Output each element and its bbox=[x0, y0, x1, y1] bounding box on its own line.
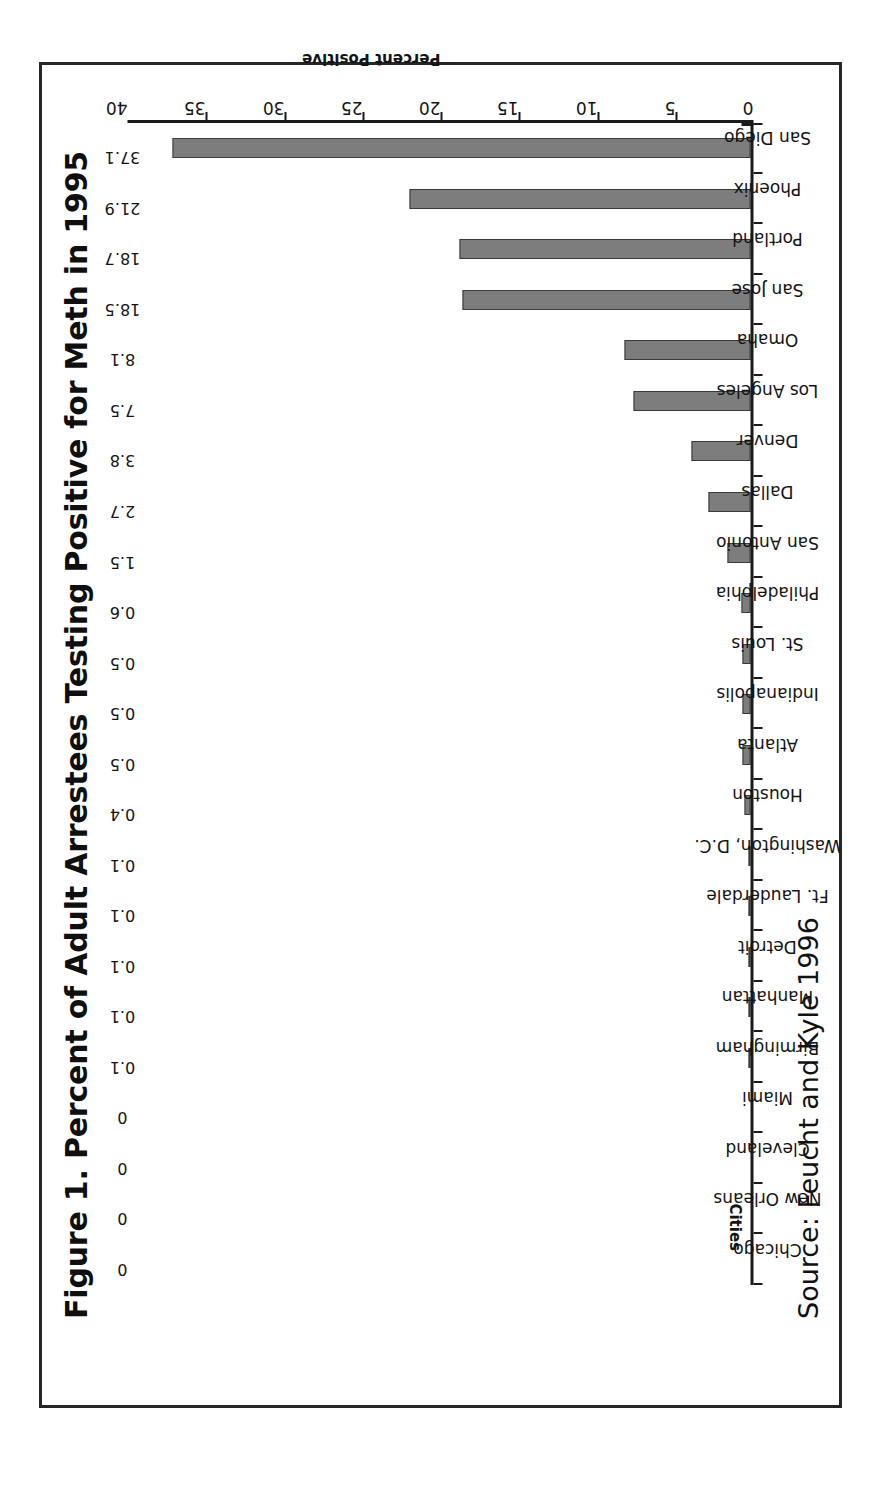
bar-group: 7.5 bbox=[127, 376, 750, 427]
category-label-cell: Dallas bbox=[753, 477, 839, 528]
category-label-cell: Los Angeles bbox=[753, 376, 839, 427]
category-label: San Antonio bbox=[716, 533, 819, 553]
bar-group: 3.8 bbox=[127, 426, 750, 477]
bar-value-label: 0.1 bbox=[109, 957, 134, 976]
value-axis-title: Percent Positive bbox=[302, 50, 440, 68]
bar-group: 0.5 bbox=[127, 729, 750, 780]
value-tick-label: 0 bbox=[742, 98, 753, 118]
bar-group: 21.9 bbox=[127, 174, 750, 225]
category-label-cell: Atlanta bbox=[753, 729, 839, 780]
bar-value-label: 8.1 bbox=[109, 350, 134, 369]
bar-value-label: 0.5 bbox=[109, 755, 134, 774]
category-label-cell: Houston bbox=[753, 780, 839, 831]
bar-group: 18.5 bbox=[127, 275, 750, 326]
bar-value-label: 18.7 bbox=[104, 249, 140, 268]
category-label: Houston bbox=[732, 785, 803, 805]
bar bbox=[624, 340, 750, 360]
bar-group: 2.7 bbox=[127, 477, 750, 528]
bar-value-label: 37.1 bbox=[104, 148, 140, 167]
bar-group: 0.1 bbox=[127, 982, 750, 1033]
value-tick-label: 25 bbox=[340, 98, 362, 118]
bar-value-label: 0 bbox=[117, 1108, 127, 1127]
bar-value-label: 0.4 bbox=[109, 805, 134, 824]
plot-area: 00000.10.10.10.10.10.40.50.50.50.61.52.7… bbox=[127, 123, 753, 1285]
category-label: Los Angeles bbox=[716, 381, 818, 401]
value-tick-label: 30 bbox=[262, 98, 284, 118]
category-label-cell: Denver bbox=[753, 426, 839, 477]
bar-value-label: 0.5 bbox=[109, 654, 134, 673]
bar-group: 0 bbox=[127, 1083, 750, 1134]
bar-group: 0 bbox=[127, 1234, 750, 1285]
category-label: Denver bbox=[736, 432, 798, 452]
category-label-cell: Omaha bbox=[753, 325, 839, 376]
value-axis-endcap bbox=[741, 123, 753, 126]
bar bbox=[462, 290, 750, 310]
category-label-cell: Philadelphia bbox=[753, 578, 839, 629]
bar-value-label: 3.8 bbox=[109, 452, 134, 471]
category-label: Dallas bbox=[741, 482, 793, 502]
figure: Figure 1. Percent of Adult Arrestees Tes… bbox=[42, 65, 839, 1405]
figure-title: Figure 1. Percent of Adult Arrestees Tes… bbox=[42, 65, 97, 1405]
bar-series: 00000.10.10.10.10.10.40.50.50.50.61.52.7… bbox=[127, 123, 750, 1285]
bar-value-label: 0 bbox=[117, 1159, 127, 1178]
category-label: Philadelphia bbox=[715, 583, 819, 603]
bar-group: 0.5 bbox=[127, 628, 750, 679]
bar-value-label: 2.7 bbox=[109, 502, 134, 521]
bar-group: 0.6 bbox=[127, 578, 750, 629]
bar-group: 8.1 bbox=[127, 325, 750, 376]
category-label: St. Louis bbox=[731, 634, 803, 654]
bar-value-label: 0.1 bbox=[109, 1007, 134, 1026]
category-label: Portland bbox=[732, 229, 802, 249]
bar-value-label: 0.1 bbox=[109, 1058, 134, 1077]
value-tick-label: 5 bbox=[664, 98, 675, 118]
source-note: Source: Feucht and Kyle 1996 bbox=[792, 917, 823, 1319]
bar-value-label: 0.1 bbox=[109, 906, 134, 925]
category-axis-title: Cities bbox=[725, 1203, 743, 1251]
category-label-cell: Phoenix bbox=[753, 174, 839, 225]
bar-group: 0.1 bbox=[127, 881, 750, 932]
bar-value-label: 0.5 bbox=[109, 704, 134, 723]
bar bbox=[459, 239, 750, 259]
category-label-cell: San Antonio bbox=[753, 527, 839, 578]
value-tick-label: 10 bbox=[575, 98, 597, 118]
category-label: Phoenix bbox=[733, 179, 800, 199]
bar-value-label: 0.6 bbox=[109, 603, 134, 622]
bar-value-label: 21.9 bbox=[104, 199, 140, 218]
bar-value-label: 18.5 bbox=[104, 300, 140, 319]
bar-value-label: 0 bbox=[117, 1260, 127, 1279]
category-label: San Diego bbox=[724, 128, 811, 148]
bar-group: 0 bbox=[127, 1184, 750, 1235]
value-tick bbox=[518, 112, 520, 123]
bar-value-label: 0.1 bbox=[109, 856, 134, 875]
category-label-cell: St. Louis bbox=[753, 628, 839, 679]
bar-group: 37.1 bbox=[127, 123, 750, 174]
category-label-cell: San Jose bbox=[753, 275, 839, 326]
bar-value-label: 0 bbox=[117, 1209, 127, 1228]
value-tick-label: 15 bbox=[497, 98, 519, 118]
category-label: San Jose bbox=[731, 280, 803, 300]
bar-group: 0.5 bbox=[127, 679, 750, 730]
bar bbox=[409, 189, 750, 209]
category-label-cell: Indianapolis bbox=[753, 679, 839, 730]
bar-group: 0.4 bbox=[127, 780, 750, 831]
value-tick-label: 40 bbox=[105, 98, 127, 118]
value-tick-label: 35 bbox=[184, 98, 206, 118]
bar-group: 18.7 bbox=[127, 224, 750, 275]
page-border: Figure 1. Percent of Adult Arrestees Tes… bbox=[39, 62, 842, 1408]
value-tick-label: 20 bbox=[418, 98, 440, 118]
category-label-cell: Washington, D.C. bbox=[753, 830, 839, 881]
category-label-cell: Portland bbox=[753, 224, 839, 275]
category-label: Omaha bbox=[736, 330, 798, 350]
value-tick bbox=[205, 112, 207, 123]
bar bbox=[172, 138, 750, 158]
category-label: Indianapolis bbox=[716, 684, 818, 704]
value-axis: 0510152025303540 Percent Positive bbox=[127, 65, 753, 123]
bar-group: 0.1 bbox=[127, 1032, 750, 1083]
category-label: Washington, D.C. bbox=[694, 836, 840, 856]
category-label: Ft. Lauderdale bbox=[706, 886, 828, 906]
category-label: Detroit bbox=[738, 937, 797, 957]
bar-group: 0 bbox=[127, 1133, 750, 1184]
bar-group: 1.5 bbox=[127, 527, 750, 578]
bar-group: 0.1 bbox=[127, 830, 750, 881]
category-label: Atlanta bbox=[737, 735, 798, 755]
